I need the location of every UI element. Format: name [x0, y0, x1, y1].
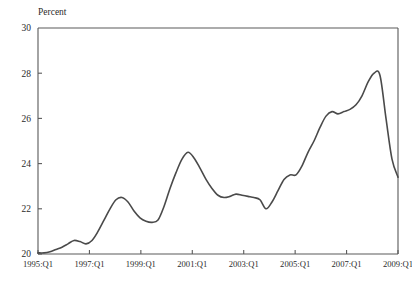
chart-container: Percent 202224262830 1995:Q11997:Q11999:… — [0, 0, 412, 286]
y-axis-tick-label: 30 — [22, 23, 32, 33]
x-axis-tick-label: 1995:Q1 — [23, 259, 53, 269]
y-axis-tick-label: 24 — [22, 159, 32, 169]
x-axis-tick-labels: 1995:Q11997:Q11999:Q12001:Q12003:Q12005:… — [23, 259, 412, 269]
x-axis-tick-label: 1997:Q1 — [74, 259, 104, 269]
x-axis-tick-label: 2009:Q1 — [383, 259, 412, 269]
x-axis-tick-marks — [38, 250, 398, 254]
y-axis-tick-marks — [38, 73, 42, 254]
x-axis-tick-label: 1999:Q1 — [126, 259, 156, 269]
axis-frame — [38, 28, 398, 254]
x-axis-tick-label: 2005:Q1 — [280, 259, 310, 269]
y-axis-tick-labels: 202224262830 — [22, 23, 32, 259]
y-axis-unit-label: Percent — [38, 7, 67, 17]
y-axis-tick-label: 22 — [22, 204, 32, 214]
x-axis-tick-label: 2003:Q1 — [229, 259, 259, 269]
y-axis-tick-label: 26 — [22, 114, 32, 124]
y-axis-tick-label: 28 — [22, 69, 32, 79]
y-axis-tick-label: 20 — [22, 249, 32, 259]
x-axis-tick-label: 2001:Q1 — [177, 259, 207, 269]
data-series-line — [38, 71, 398, 253]
line-chart: Percent 202224262830 1995:Q11997:Q11999:… — [0, 0, 412, 286]
x-axis-tick-label: 2007:Q1 — [332, 259, 362, 269]
